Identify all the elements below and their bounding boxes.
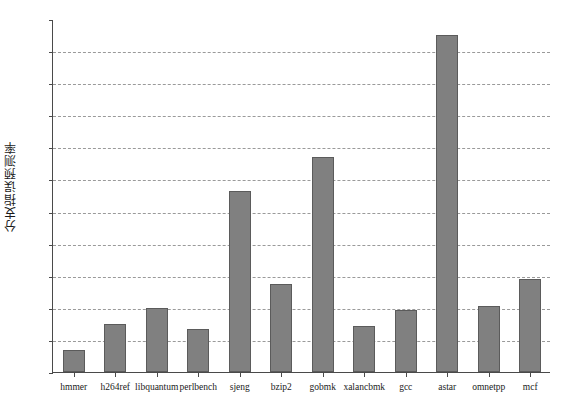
x-tick-label-mcf: mcf	[490, 383, 565, 393]
bar-h264ref	[104, 324, 126, 372]
bar-xalancbmk	[353, 326, 375, 372]
bar-hmmer	[63, 350, 85, 372]
x-tick-mark	[447, 373, 448, 377]
bar-libquantum	[146, 308, 168, 372]
plot-area: 0%2%4%6%8%10%12%14%16%18%20%22% hmmerh26…	[52, 20, 550, 373]
x-tick-mark	[74, 373, 75, 377]
bar-sjeng	[229, 191, 251, 372]
bar-astar	[436, 35, 458, 372]
bar-mcf	[519, 279, 541, 372]
x-tick-mark	[115, 373, 116, 377]
x-tick-mark	[530, 373, 531, 377]
bar-omnetpp	[478, 306, 500, 372]
x-tick-mark	[406, 373, 407, 377]
branch-misprediction-bar-chart: 分支指误预测率 0%2%4%6%8%10%12%14%16%18%20%22% …	[0, 0, 565, 410]
bar-gobmk	[312, 157, 334, 372]
bar-perlbench	[187, 329, 209, 372]
x-tick-mark	[281, 373, 282, 377]
y-tick-mark	[49, 373, 53, 374]
x-tick-mark	[157, 373, 158, 377]
x-tick-mark	[323, 373, 324, 377]
x-tick-mark	[489, 373, 490, 377]
x-tick-mark	[240, 373, 241, 377]
x-tick-mark	[198, 373, 199, 377]
y-axis-title: 分支指误预测率	[0, 0, 22, 373]
bar-gcc	[395, 310, 417, 372]
y-axis-title-text: 分支指误预测率	[5, 141, 17, 232]
bars	[53, 20, 550, 372]
bar-bzip2	[270, 284, 292, 372]
x-tick-mark	[364, 373, 365, 377]
